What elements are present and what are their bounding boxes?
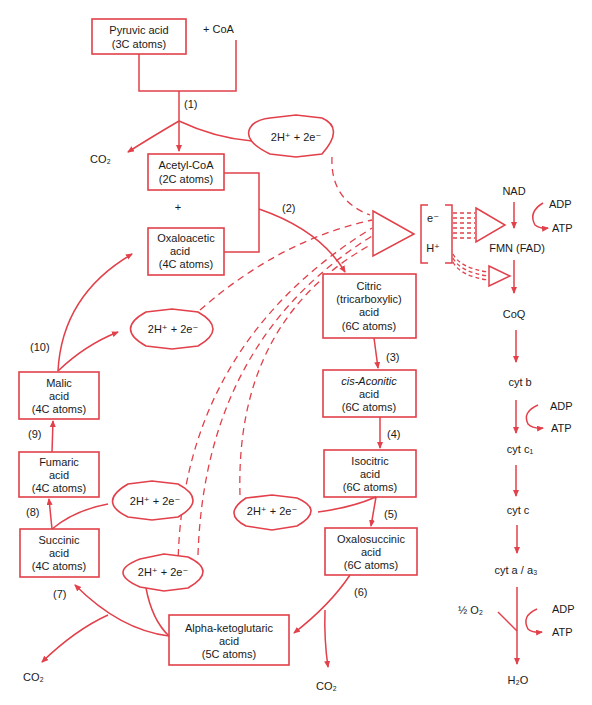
coa-label: + CoA: [203, 23, 235, 35]
svg-text:2H⁺ + 2e⁻: 2H⁺ + 2e⁻: [138, 566, 189, 578]
atp-curve-2: [526, 405, 543, 428]
cyt-b-label: cyt b: [508, 376, 531, 388]
svg-text:cis-Aconitic: cis-Aconitic: [341, 375, 397, 387]
nad-label: NAD: [502, 185, 525, 197]
h-pair-oval-8: 2H⁺ + 2e⁻: [113, 481, 194, 520]
arrow-step-3: [374, 338, 378, 368]
step-1: (1): [184, 98, 197, 110]
h-branch-1: [179, 121, 252, 141]
svg-text:acid: acid: [359, 388, 379, 400]
co2-arrow-1: [128, 121, 179, 152]
malic-box: Malic acid (4C atoms): [19, 372, 99, 419]
svg-text:Fumaric: Fumaric: [39, 456, 79, 468]
step-5: (5): [384, 508, 397, 520]
co2-arrow-6: [325, 610, 328, 667]
adp-label-3: ADP: [552, 603, 575, 615]
svg-text:Malic: Malic: [46, 377, 72, 389]
proton-triangle: [489, 266, 510, 286]
arrow-step-8: [49, 499, 52, 529]
svg-text:(5C atoms): (5C atoms): [202, 648, 256, 660]
svg-text:(3C atoms): (3C atoms): [112, 38, 166, 50]
svg-text:acid: acid: [170, 245, 190, 257]
svg-text:Oxalosuccinic: Oxalosuccinic: [337, 533, 405, 545]
svg-text:(6C atoms): (6C atoms): [342, 320, 396, 332]
svg-text:acid: acid: [49, 390, 69, 402]
co2-label-6: CO₂: [316, 680, 337, 692]
svg-text:Pyruvic acid: Pyruvic acid: [109, 24, 168, 36]
arrow-step-7: [75, 585, 169, 636]
step-9: (9): [28, 428, 41, 440]
adp-label-1: ADP: [549, 198, 572, 210]
svg-text:Oxaloacetic: Oxaloacetic: [157, 232, 215, 244]
krebs-cycle-diagram: Pyruvic acid (3C atoms) + CoA (1) CO₂ 2H…: [0, 0, 592, 705]
cyt-a-a3-label: cyt a / a₃: [495, 564, 538, 576]
svg-text:(4C atoms): (4C atoms): [32, 560, 86, 572]
collector-triangle: [373, 211, 414, 256]
svg-text:(2C atoms): (2C atoms): [159, 173, 213, 185]
cis-aconitic-box: cis-Aconitic acid (6C atoms): [323, 370, 416, 417]
h-branch-5: [318, 497, 376, 512]
oxygen-line: [498, 612, 517, 631]
svg-text:acid: acid: [360, 468, 380, 480]
svg-text:Acetyl-CoA: Acetyl-CoA: [158, 159, 214, 171]
svg-text:2H⁺ + 2e⁻: 2H⁺ + 2e⁻: [271, 131, 322, 143]
svg-text:(4C atoms): (4C atoms): [32, 482, 86, 494]
step-8: (8): [26, 506, 39, 518]
svg-text:2H⁺ + 2e⁻: 2H⁺ + 2e⁻: [148, 323, 199, 335]
cyt-c-label: cyt c: [507, 504, 530, 516]
h-pair-oval-5: 2H⁺ + 2e⁻: [234, 495, 311, 530]
svg-text:(6C atoms): (6C atoms): [343, 481, 397, 493]
svg-text:(6C atoms): (6C atoms): [344, 559, 398, 571]
oxalosuccinic-box: Oxalosuccinic acid (6C atoms): [325, 528, 417, 575]
step-2: (2): [282, 202, 295, 214]
svg-text:(4C atoms): (4C atoms): [159, 258, 213, 270]
h-branch-8: [52, 504, 108, 529]
h-pair-oval-1: 2H⁺ + 2e⁻: [249, 115, 334, 157]
fumaric-box: Fumaric acid (4C atoms): [19, 452, 99, 497]
step-4: (4): [387, 428, 400, 440]
svg-text:Isocitric: Isocitric: [351, 455, 389, 467]
arrow-step-5: [371, 497, 376, 526]
atp-label-1: ATP: [552, 222, 573, 234]
svg-text:(6C atoms): (6C atoms): [342, 401, 396, 413]
join-line-2: [224, 173, 259, 252]
step-7: (7): [53, 588, 66, 600]
step-6: (6): [354, 586, 367, 598]
alpha-ketoglutaric-box: Alpha-ketoglutaric acid (5C atoms): [169, 615, 289, 665]
plus-sign: +: [175, 201, 181, 213]
coq-label: CoQ: [503, 308, 526, 320]
svg-text:Alpha-ketoglutaric: Alpha-ketoglutaric: [185, 622, 274, 634]
proton-label: H⁺: [426, 242, 440, 254]
svg-text:acid: acid: [49, 469, 69, 481]
h-pair-oval-10: 2H⁺ + 2e⁻: [131, 309, 214, 349]
svg-text:(4C atoms): (4C atoms): [32, 403, 86, 415]
proton-dashes: [453, 254, 488, 280]
step-3: (3): [386, 351, 399, 363]
svg-text:Succinic: Succinic: [39, 534, 80, 546]
electron-triangle: [476, 208, 505, 242]
atp-curve-1: [533, 203, 548, 228]
co2-label-1: CO₂: [90, 153, 111, 165]
dashed-1: [332, 157, 370, 215]
pyruvic-box: Pyruvic acid (3C atoms): [92, 19, 186, 54]
svg-text:acid: acid: [49, 547, 69, 559]
svg-text:2H⁺ + 2e⁻: 2H⁺ + 2e⁻: [247, 505, 298, 517]
atp-label-2: ATP: [551, 422, 572, 434]
svg-text:2H⁺ + 2e⁻: 2H⁺ + 2e⁻: [130, 495, 181, 507]
electron-label: e⁻: [427, 212, 439, 224]
svg-text:acid: acid: [219, 635, 239, 647]
h-branch-10: [58, 332, 118, 371]
oxygen-label: ½ O₂: [458, 604, 483, 616]
bracket-right: [445, 205, 452, 263]
atp-label-3: ATP: [552, 626, 573, 638]
svg-text:Citric: Citric: [356, 280, 382, 292]
h-branch-7: [146, 588, 169, 636]
co2-arrow-7: [42, 615, 108, 662]
arrow-step-6: [294, 575, 350, 633]
adp-label-2: ADP: [550, 400, 573, 412]
svg-text:(tricarboxylic): (tricarboxylic): [336, 293, 401, 305]
arrow-to-citric: [259, 209, 345, 272]
water-label: H₂O: [508, 674, 529, 686]
co2-label-7: CO₂: [23, 671, 44, 683]
citric-box: Citric (tricarboxylic) acid (6C atoms): [323, 274, 416, 338]
